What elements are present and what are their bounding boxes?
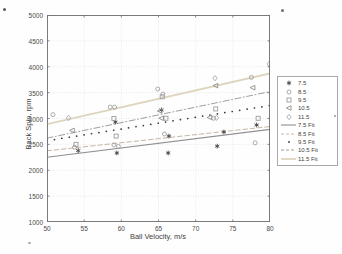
legend-label: 11.5 [298,113,309,121]
circle-marker [287,90,291,94]
y-tick-label: 1000 [17,219,43,226]
circle-marker [108,105,112,109]
triangle-left-marker [207,115,212,120]
y-tick-label: 2000 [17,167,43,174]
diamond-marker [287,114,291,119]
asterisk-marker [76,148,80,153]
y-tick-label: 4500 [17,37,43,44]
triangle-left-marker [286,106,291,111]
triangle-left-marker [250,85,255,90]
circle-marker [51,113,55,117]
square-marker [287,98,291,102]
triangle-left-marker [70,128,75,133]
circle-marker [162,132,166,136]
circle-marker [253,141,257,145]
y-tick-label: 3000 [17,115,43,122]
x-tick-label: 65 [155,225,162,232]
x-tick-label: 70 [192,225,199,232]
legend-box: 7.58.59.510.511.57.5 Fit8.5 Fit9.5 Fit10… [277,76,338,166]
fit-line-legend-icon [280,130,298,138]
scan-artifact [3,8,6,11]
fit-line-legend-icon [280,121,298,129]
scan-artifact [334,115,336,117]
legend-item: 10.5 [280,104,337,112]
scan-artifact [281,9,284,12]
plot-svg [47,15,270,222]
legend-label: 8.5 [298,88,306,96]
square-marker [114,134,118,138]
y-tick-label: 5000 [17,12,43,19]
plot-area [47,15,270,222]
legend-item: 7.5 [280,79,337,87]
legend-item: 11.5 Fit [280,155,337,163]
asterisk-marker [287,81,291,86]
asterisk-marker [255,123,259,128]
diamond-marker [213,75,217,80]
square-marker [256,116,260,120]
y-tick-label: 3500 [17,89,43,96]
x-tick-label: 55 [81,225,88,232]
asterisk-legend-icon [280,79,298,87]
triangle-left-legend-icon [280,104,298,112]
legend-item: 8.5 Fit [280,130,337,138]
x-axis-title: Ball Velocity, m/s [130,232,186,241]
circle-marker [156,87,160,91]
x-tick-label: 75 [229,225,236,232]
legend-item: 10.5 Fit [280,146,337,154]
legend-label: 7.5 Fit [298,121,315,129]
legend-label: 7.5 [298,79,306,87]
chart-figure: Ball Velocity, m/s Back Spin, rpm 7.58.5… [0,0,342,254]
legend-label: 8.5 Fit [298,130,315,138]
fit-line [47,129,270,157]
y-tick-label: 2500 [17,141,43,148]
asterisk-marker [115,151,119,156]
legend-item: 9.5 [280,96,337,104]
legend-item: 7.5 Fit [280,121,337,129]
x-tick-label: 60 [118,225,125,232]
square-legend-icon [280,96,298,104]
scan-artifact [28,242,31,244]
asterisk-marker [166,151,170,156]
fit-line-legend-icon [280,138,298,146]
fit-line-legend-icon [280,155,298,163]
legend-label: 10.5 Fit [298,146,318,154]
square-marker [214,107,218,111]
legend-label: 11.5 Fit [298,155,318,163]
dot-sample [288,141,290,143]
legend-label: 10.5 [298,104,310,112]
y-tick-label: 1500 [17,193,43,200]
diamond-legend-icon [280,113,298,121]
y-tick-label: 4000 [17,63,43,70]
legend-item: 9.5 Fit [280,138,337,146]
x-tick-label: 50 [43,225,50,232]
legend-label: 9.5 Fit [298,138,315,146]
asterisk-marker [215,144,219,149]
legend-item: 8.5 [280,88,337,96]
circle-legend-icon [280,88,298,96]
legend-label: 9.5 [298,96,306,104]
fit-line-legend-icon [280,146,298,154]
legend-item: 11.5 [280,113,337,121]
x-tick-label: 80 [266,225,273,232]
